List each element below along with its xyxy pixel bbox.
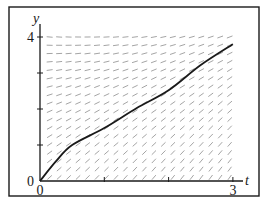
slope-segment <box>94 61 100 62</box>
slope-segment <box>104 85 110 87</box>
slope-segment <box>209 118 213 122</box>
slope-segment <box>132 37 138 38</box>
slope-segment <box>132 53 138 54</box>
slope-segment <box>151 61 157 63</box>
slope-segment <box>123 110 128 113</box>
slope-segment <box>75 69 81 70</box>
slope-segment <box>114 134 119 138</box>
slope-segment <box>227 52 232 55</box>
slope-segment <box>123 167 127 171</box>
slope-segment <box>218 101 223 105</box>
slope-segment <box>161 110 166 114</box>
slope-segment <box>75 86 81 88</box>
slope-segment <box>208 93 213 97</box>
y-tick-label: 4 <box>27 30 34 45</box>
slope-segment <box>190 175 194 180</box>
slope-segment <box>218 159 222 164</box>
slope-segment <box>56 102 62 104</box>
slope-segment <box>122 45 128 46</box>
slope-segment <box>94 118 99 121</box>
slope-segment <box>189 93 194 96</box>
slope-segment <box>142 85 147 88</box>
slope-segment <box>199 167 203 172</box>
slope-segment <box>179 44 185 46</box>
slope-segment <box>104 167 108 171</box>
slope-segment <box>85 151 90 155</box>
slope-segment <box>47 135 52 138</box>
slope-segment <box>123 126 128 130</box>
slope-segment <box>66 61 72 62</box>
slope-segment <box>75 61 81 62</box>
slope-segment <box>85 175 89 179</box>
slope-segment <box>199 134 203 138</box>
slope-segment <box>209 126 213 130</box>
slope-segment <box>66 78 72 79</box>
slope-segment <box>142 69 148 71</box>
slope-segment <box>123 134 128 138</box>
slope-segment <box>208 77 213 80</box>
slope-segment <box>66 159 71 163</box>
slope-segment <box>170 101 175 104</box>
slope-segment <box>123 118 128 121</box>
slope-segment <box>66 118 71 121</box>
slope-segment <box>47 94 53 96</box>
slope-segment <box>180 69 185 72</box>
slope-segment <box>217 36 223 38</box>
slope-segment <box>47 102 53 104</box>
slope-segment <box>142 167 146 171</box>
slope-segment <box>133 151 137 155</box>
slope-segment <box>171 142 175 146</box>
slope-segment <box>227 109 231 113</box>
slope-segment <box>114 167 118 171</box>
slope-segment <box>95 134 100 138</box>
slope-segment <box>66 69 72 70</box>
slope-segment <box>151 53 157 55</box>
slope-segment <box>76 134 81 137</box>
slope-segment <box>56 118 61 121</box>
slope-segment <box>113 69 119 71</box>
slope-segment <box>104 134 109 138</box>
slope-segment <box>161 61 167 63</box>
slope-segment <box>218 167 222 172</box>
slope-segment <box>104 77 110 79</box>
slope-segment <box>123 61 129 63</box>
slope-segment <box>56 86 62 88</box>
slope-segment <box>57 167 62 171</box>
slope-segment <box>208 101 213 105</box>
slope-segment <box>47 62 53 63</box>
slope-segment <box>76 151 81 155</box>
slope-segment <box>189 44 195 46</box>
slope-segment <box>152 159 156 163</box>
slope-segment <box>123 102 128 105</box>
slope-segment <box>190 118 195 122</box>
slope-segment <box>199 109 204 113</box>
slope-segment <box>94 102 99 105</box>
slope-segment <box>198 36 204 38</box>
slope-segment <box>133 142 137 146</box>
slope-segment <box>199 142 203 146</box>
slope-segment <box>94 45 100 46</box>
slope-segment <box>75 94 81 96</box>
slope-segment <box>85 94 91 96</box>
slope-segment <box>170 61 176 63</box>
slope-segment <box>161 167 165 172</box>
slope-segment <box>104 110 109 113</box>
slope-segment <box>132 85 137 88</box>
slope-segment <box>218 60 223 63</box>
slope-segment <box>180 93 185 96</box>
slope-segment <box>227 93 232 97</box>
slope-segment <box>85 61 91 62</box>
slope-segment <box>179 36 185 38</box>
slope-segment <box>161 101 166 104</box>
slope-segment <box>114 142 119 146</box>
slope-segment <box>66 126 71 129</box>
slope-segment <box>218 134 222 138</box>
slope-segment <box>123 53 129 54</box>
y-axis-label: y <box>31 11 40 26</box>
slope-segment <box>66 86 72 88</box>
slope-segment <box>228 159 232 164</box>
slope-segment <box>218 85 223 88</box>
slope-segment <box>170 110 175 114</box>
slope-segment <box>209 134 213 138</box>
slope-segment <box>199 126 203 130</box>
